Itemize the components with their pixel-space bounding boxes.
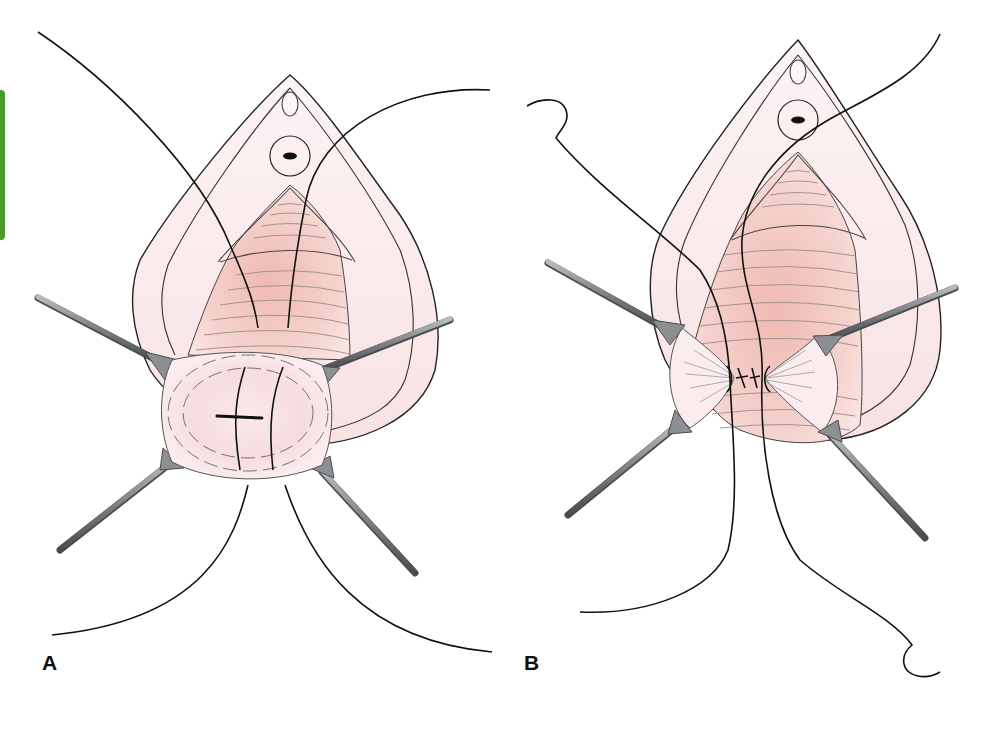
surgical-illustration: A B <box>0 0 981 729</box>
urethral-meatus <box>283 153 297 160</box>
retracted-flap <box>162 352 332 479</box>
panel-b <box>527 34 955 677</box>
illustration-canvas <box>0 0 981 729</box>
incision-mark <box>217 416 262 418</box>
panel-label-a: A <box>42 652 57 673</box>
panel-a <box>38 32 492 652</box>
retractor-lower-right-b[interactable] <box>818 420 925 538</box>
urethral-meatus-b <box>791 117 805 124</box>
clitoris-b <box>790 60 806 84</box>
panel-label-b: B <box>524 652 539 673</box>
retractor-lower-left-b[interactable] <box>568 410 692 515</box>
retractor-lower-right[interactable] <box>310 456 415 573</box>
retractor-lower-left[interactable] <box>60 448 184 550</box>
clitoris <box>282 92 298 116</box>
chapter-tab <box>0 90 5 240</box>
